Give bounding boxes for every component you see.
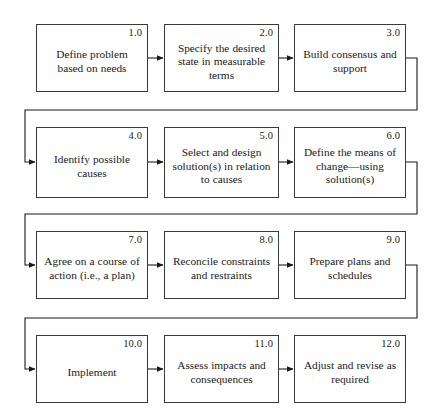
process-box-8[interactable]: 8.0 Reconcile constraints and restraints: [164, 231, 279, 299]
process-box-7[interactable]: 7.0 Agree on a course of action (i.e., a…: [36, 231, 148, 299]
process-box-1[interactable]: 1.0 Define problem based on needs: [36, 24, 148, 92]
process-box-10-number: 10.0: [37, 336, 147, 350]
process-box-10[interactable]: 10.0 Implement: [36, 335, 148, 403]
process-box-3-label: Build consensus and support: [295, 39, 405, 91]
process-box-12-label: Adjust and revise as required: [295, 350, 405, 402]
process-box-11-label: Assess impacts and consequences: [165, 350, 278, 402]
process-box-4-label: Identify possible causes: [37, 142, 147, 197]
process-box-4-number: 4.0: [37, 128, 147, 142]
process-box-2-label: Specify the desired state in measurable …: [165, 39, 278, 91]
process-box-6-number: 6.0: [295, 128, 405, 142]
process-box-9[interactable]: 9.0 Prepare plans and schedules: [294, 231, 406, 299]
process-box-2[interactable]: 2.0 Specify the desired state in measura…: [164, 24, 279, 92]
process-box-5[interactable]: 5.0 Select and design solution(s) in rel…: [164, 127, 279, 198]
process-box-4[interactable]: 4.0 Identify possible causes: [36, 127, 148, 198]
process-box-11[interactable]: 11.0 Assess impacts and consequences: [164, 335, 279, 403]
process-box-1-number: 1.0: [37, 25, 147, 39]
process-box-5-label: Select and design solution(s) in relatio…: [165, 142, 278, 197]
process-box-8-number: 8.0: [165, 232, 278, 246]
flowchart-diagram: 1.0 Define problem based on needs 2.0 Sp…: [0, 0, 440, 417]
process-box-10-label: Implement: [37, 350, 147, 402]
process-box-3[interactable]: 3.0 Build consensus and support: [294, 24, 406, 92]
process-box-7-label: Agree on a course of action (i.e., a pla…: [37, 246, 147, 298]
process-box-9-number: 9.0: [295, 232, 405, 246]
process-box-12-number: 12.0: [295, 336, 405, 350]
process-box-11-number: 11.0: [165, 336, 278, 350]
process-box-5-number: 5.0: [165, 128, 278, 142]
process-box-9-label: Prepare plans and schedules: [295, 246, 405, 298]
process-box-6[interactable]: 6.0 Define the means of change—using sol…: [294, 127, 406, 198]
process-box-7-number: 7.0: [37, 232, 147, 246]
process-box-8-label: Reconcile constraints and restraints: [165, 246, 278, 298]
process-box-12[interactable]: 12.0 Adjust and revise as required: [294, 335, 406, 403]
process-box-2-number: 2.0: [165, 25, 278, 39]
process-box-6-label: Define the means of change—using solutio…: [295, 142, 405, 197]
process-box-3-number: 3.0: [295, 25, 405, 39]
process-box-1-label: Define problem based on needs: [37, 39, 147, 91]
